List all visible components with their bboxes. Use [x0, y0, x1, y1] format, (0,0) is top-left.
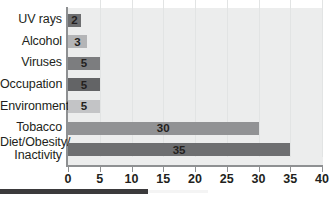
category-label-line: Occupation	[0, 78, 62, 91]
bar-value-label-5: 30	[68, 122, 259, 135]
category-label-2: Viruses	[0, 56, 62, 69]
category-label-line: Inactivity	[0, 149, 62, 162]
category-label-line: UV rays	[0, 13, 62, 26]
x-tick-label-40: 40	[302, 172, 334, 186]
category-label-5: Tobacco	[0, 121, 62, 134]
bar-value-label-6: 35	[68, 144, 290, 157]
category-label-3: Occupation	[0, 78, 62, 91]
category-label-line: Diet/Obesity/	[0, 136, 62, 149]
bar-value-label-3: 5	[68, 79, 100, 92]
category-label-6: Diet/Obesity/Inactivity	[0, 136, 62, 161]
bar-value-label-2: 5	[68, 57, 100, 70]
bar-value-label-0: 2	[68, 14, 81, 27]
category-label-line: Viruses	[0, 56, 62, 69]
caption-strip-secondary	[148, 190, 208, 193]
gridline-30	[259, 0, 260, 157]
caption-strip	[0, 189, 148, 194]
category-label-line: Tobacco	[0, 121, 62, 134]
category-label-line: Alcohol	[0, 35, 62, 48]
category-label-1: Alcohol	[0, 35, 62, 48]
gridline-40	[322, 0, 323, 157]
category-label-0: UV rays	[0, 13, 62, 26]
gridline-35	[290, 0, 291, 157]
category-label-4: Environmental	[0, 100, 62, 113]
bar-value-label-4: 5	[68, 100, 100, 113]
category-label-line: Environmental	[0, 100, 62, 113]
bar-value-label-1: 3	[68, 36, 87, 49]
